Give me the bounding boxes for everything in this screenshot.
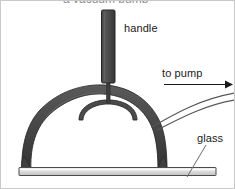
arrow-head: [225, 81, 233, 89]
handle-bar: [102, 10, 116, 83]
tube-line-outer: [152, 93, 235, 127]
plate-body: [19, 168, 216, 176]
handle-stem: [107, 81, 111, 103]
label-to-pump: to pump: [162, 67, 202, 79]
handle-body: [102, 10, 116, 83]
bell-jar-dome: [22, 85, 167, 171]
outlet-tube: [152, 93, 235, 130]
dome-wall: [22, 85, 167, 171]
bell-jar-figure: a vacuum pump: [0, 0, 235, 189]
label-handle: handle: [124, 22, 158, 34]
flow-arrow: [164, 81, 233, 89]
bell-jar-drawing: [1, 1, 235, 189]
base-plate: [19, 168, 216, 176]
label-glass: glass: [197, 132, 223, 144]
